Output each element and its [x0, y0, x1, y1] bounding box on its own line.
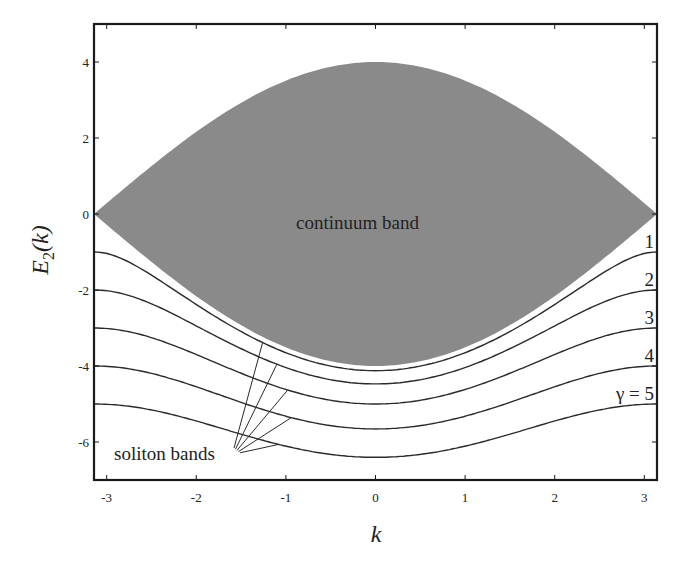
y-tick-label: -2	[78, 283, 89, 298]
x-tick-label: 0	[372, 490, 379, 505]
curve-label-gamma-1: 1	[645, 231, 655, 252]
x-tick-label: 3	[641, 490, 648, 505]
x-axis-title: k	[371, 521, 382, 547]
annotation-pointer-line	[236, 364, 277, 449]
y-tick-label: -6	[78, 435, 89, 450]
y-tick-label: -4	[78, 359, 89, 374]
x-tick-label: -1	[280, 490, 291, 505]
x-tick-label: -3	[101, 490, 112, 505]
y-axis-title-main: E	[27, 260, 53, 276]
curve-label-gamma-3: 3	[645, 307, 655, 328]
x-tick-label: 2	[551, 490, 558, 505]
y-tick-label: 4	[83, 55, 90, 70]
y-tick-label: 0	[83, 207, 90, 222]
x-tick-label: 1	[462, 490, 469, 505]
curve-label-gamma-2: 2	[645, 269, 655, 290]
y-axis-title-sub: 2	[40, 252, 57, 260]
annotation-pointer-line	[240, 444, 279, 452]
annotation-pointer-line	[239, 418, 292, 452]
curve-label-gamma-4: 4	[645, 345, 655, 366]
soliton-bands-label: soliton bands	[114, 443, 215, 464]
curve-label-gamma-5: γ = 5	[615, 383, 654, 404]
annotation-pointer-line	[237, 390, 288, 450]
x-tick-label: -2	[191, 490, 202, 505]
band-structure-chart: -3-2-10123420-2-4-6 continuum band solit…	[0, 0, 681, 562]
figure: -3-2-10123420-2-4-6 continuum band solit…	[0, 0, 681, 562]
annotation-pointer-line	[234, 343, 263, 448]
y-axis-title-arg: (k)	[27, 225, 53, 252]
y-axis-title: E2(k)	[27, 225, 57, 275]
soliton-curve-gamma-4	[94, 366, 657, 429]
y-tick-label: 2	[83, 131, 90, 146]
continuum-band-label: continuum band	[296, 212, 419, 233]
